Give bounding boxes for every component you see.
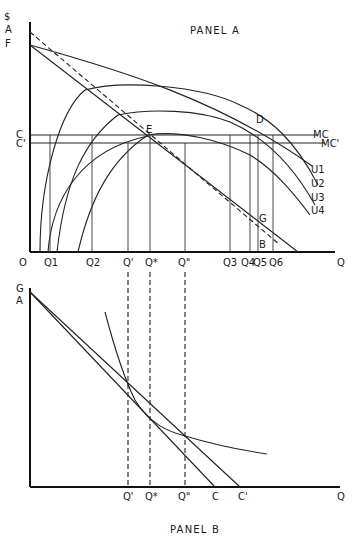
panel-a-title: PANEL A [190,25,240,36]
tick-q5: Q5 [253,257,267,268]
tick-b-c-prime: C' [238,491,248,502]
a-label: A [5,24,12,35]
f-label: F [5,38,11,49]
mc-prime-label: MC' [321,138,339,149]
panel-a-q-label: Q [337,257,345,268]
tick-b-q-star: Q* [145,491,158,502]
point-g-label: G [259,213,267,224]
tick-b-c: C [212,491,219,502]
indifference-curve [105,312,267,454]
tick-q6: Q6 [269,257,283,268]
a-label-b: A [16,295,23,306]
panel-b-title: PANEL B [170,524,220,535]
economics-diagram: PANEL A $ A F C C' O Q Q1 Q2 Q' Q* Q" Q3… [0,0,357,548]
tick-b-q-double-prime: Q" [178,491,190,502]
point-b-label: B [259,239,266,250]
tick-q2: Q2 [86,257,100,268]
panel-b: G A Q Q' Q* Q" C C' PANEL B [16,283,345,535]
origin-label: O [19,257,27,268]
curve-u2 [40,85,318,252]
tick-q-prime: Q' [123,257,134,268]
tick-b-q-prime: Q' [123,491,134,502]
curve-u3 [57,111,315,252]
u1-label: U1 [311,164,325,175]
u3-label: U3 [311,192,325,203]
budget-line-c [30,292,215,487]
u4-label: U4 [311,205,325,216]
dollar-label: $ [4,11,10,22]
point-e-label: E [146,124,152,135]
c-prime-label: C' [16,138,26,149]
tick-q3: Q3 [223,257,237,268]
u2-label: U2 [311,178,325,189]
g-label: G [16,283,24,294]
tick-q-double-prime: Q" [178,257,190,268]
tick-q1: Q1 [44,257,58,268]
panel-a: PANEL A $ A F C C' O Q Q1 Q2 Q' Q* Q" Q3… [4,11,345,268]
budget-line-c-prime [30,292,240,487]
tick-q-star: Q* [145,257,158,268]
point-d-label: D [256,114,264,125]
panel-b-q-label: Q [337,491,345,502]
dashed-line-a-b [30,32,280,245]
